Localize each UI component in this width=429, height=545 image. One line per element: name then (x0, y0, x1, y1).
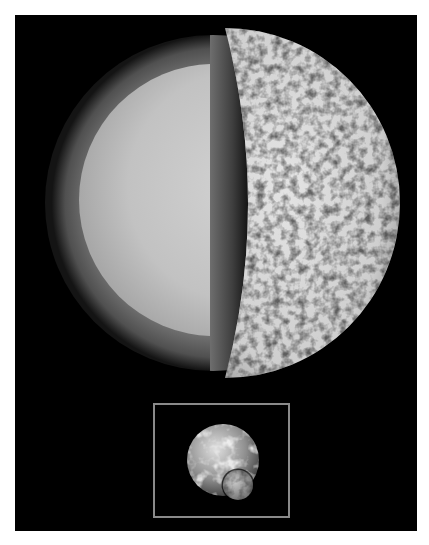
figure-canvas (15, 15, 417, 531)
planet-cutaway (45, 25, 415, 385)
earth-moon-inset (154, 404, 289, 517)
image-frame: Cutaway view of a cratered planetary bod… (15, 15, 417, 531)
